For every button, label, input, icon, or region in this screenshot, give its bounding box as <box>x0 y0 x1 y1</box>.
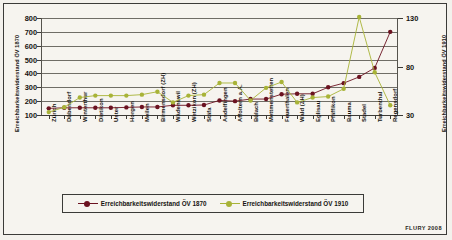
x-tick-mark <box>111 115 112 119</box>
data-point <box>341 87 345 91</box>
y-tick-label-right: 80 <box>406 62 430 71</box>
x-tick-mark <box>328 115 329 119</box>
data-point <box>155 105 159 109</box>
x-tick-mark <box>266 115 267 119</box>
data-point <box>78 95 82 99</box>
data-point <box>295 100 299 104</box>
data-point <box>357 75 361 79</box>
data-point <box>62 105 66 109</box>
data-point <box>326 94 330 98</box>
data-series-layer <box>41 18 398 115</box>
y-tick-label-right: 30 <box>406 111 430 120</box>
data-point <box>202 92 206 96</box>
y-tick-label-left: 600 <box>11 41 37 50</box>
data-point <box>155 90 159 94</box>
y-tick-label-left: 300 <box>11 83 37 92</box>
y-tick-label-left: 100 <box>11 111 37 120</box>
x-tick-mark <box>313 115 314 119</box>
y-tick-label-left: 800 <box>11 14 37 23</box>
data-point <box>264 97 268 101</box>
x-tick-mark <box>49 115 50 119</box>
data-point <box>373 70 377 74</box>
legend-marker-icon <box>226 201 232 207</box>
series-line <box>49 32 390 108</box>
x-tick-mark <box>282 115 283 119</box>
y-tick-label-left: 500 <box>11 55 37 64</box>
x-tick-mark <box>251 115 252 119</box>
x-tick-mark <box>173 115 174 119</box>
y-axis-title-right: Erreichbarkeitswiderstand ÖV 1910 <box>441 35 447 132</box>
y-tick-label-left: 700 <box>11 27 37 36</box>
data-point <box>233 81 237 85</box>
y-tick-mark-left <box>37 115 41 116</box>
data-point <box>388 103 392 107</box>
figure-container: Erreichbarkeitswiderstand ÖV 1870 Erreic… <box>0 0 452 240</box>
data-point <box>47 110 51 114</box>
data-point <box>124 93 128 97</box>
x-tick-mark <box>142 115 143 119</box>
data-point <box>217 81 221 85</box>
data-point <box>388 30 392 34</box>
x-tick-mark <box>344 115 345 119</box>
x-tick-mark <box>188 115 189 119</box>
legend-item[interactable]: Erreichbarkeitswiderstand ÖV 1910 <box>220 200 349 207</box>
legend-label: Erreichbarkeitswiderstand ÖV 1870 <box>101 200 207 207</box>
legend-item[interactable]: Erreichbarkeitswiderstand ÖV 1870 <box>78 200 207 207</box>
data-point <box>202 103 206 107</box>
data-point <box>279 80 283 84</box>
y-tick-mark-right <box>398 115 403 116</box>
data-point <box>140 105 144 109</box>
source-credit: FLURY 2008 <box>405 225 442 231</box>
chart-legend: Erreichbarkeitswiderstand ÖV 1870Erreich… <box>62 194 364 213</box>
x-tick-mark <box>95 115 96 119</box>
data-point <box>248 98 252 102</box>
x-tick-mark <box>297 115 298 119</box>
data-point <box>264 86 268 90</box>
data-point <box>217 98 221 102</box>
y-tick-label-left: 200 <box>11 97 37 106</box>
series-line <box>49 17 390 112</box>
x-tick-mark <box>204 115 205 119</box>
y-tick-mark-right <box>398 18 403 19</box>
data-point <box>93 93 97 97</box>
data-point <box>310 95 314 99</box>
y-tick-label-right: 130 <box>406 14 430 23</box>
x-tick-mark <box>220 115 221 119</box>
x-tick-mark <box>157 115 158 119</box>
data-point <box>124 105 128 109</box>
legend-label: Erreichbarkeitswiderstand ÖV 1910 <box>243 200 349 207</box>
x-tick-mark <box>126 115 127 119</box>
y-tick-mark-right <box>398 67 403 68</box>
x-tick-mark <box>375 115 376 119</box>
x-tick-mark <box>80 115 81 119</box>
data-point <box>140 92 144 96</box>
data-point <box>109 93 113 97</box>
legend-marker-icon <box>84 201 90 207</box>
y-tick-label-left: 400 <box>11 69 37 78</box>
data-point <box>233 99 237 103</box>
data-point <box>326 85 330 89</box>
legend-line-swatch <box>220 203 240 204</box>
data-point <box>295 92 299 96</box>
data-point <box>186 93 190 97</box>
data-point <box>78 106 82 110</box>
data-point <box>171 100 175 104</box>
x-tick-mark <box>235 115 236 119</box>
data-point <box>186 103 190 107</box>
data-point <box>109 106 113 110</box>
legend-line-swatch <box>78 203 98 204</box>
data-point <box>279 92 283 96</box>
data-point <box>93 106 97 110</box>
data-point <box>357 15 361 19</box>
